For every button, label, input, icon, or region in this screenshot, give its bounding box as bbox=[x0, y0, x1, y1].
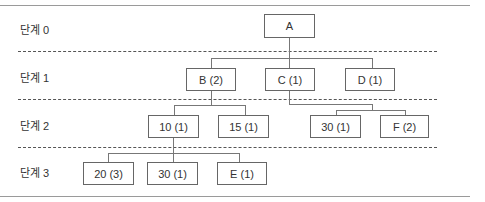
level-label-0: 단계 0 bbox=[20, 21, 49, 37]
connector bbox=[289, 104, 373, 105]
connector bbox=[239, 153, 240, 162]
node-10: 10 (1) bbox=[148, 115, 199, 138]
node-d: D (1) bbox=[345, 68, 395, 91]
connector bbox=[289, 38, 290, 68]
node-20: 20 (3) bbox=[83, 162, 134, 185]
connector bbox=[289, 90, 290, 104]
node-e: E (1) bbox=[217, 162, 267, 185]
connector bbox=[108, 153, 240, 154]
connector bbox=[336, 110, 406, 111]
connector bbox=[211, 90, 212, 105]
level-label-3: 단계 3 bbox=[20, 164, 49, 180]
node-30-level3: 30 (1) bbox=[147, 162, 198, 185]
connector bbox=[174, 105, 175, 115]
node-30-level2: 30 (1) bbox=[310, 115, 361, 138]
connector bbox=[211, 58, 373, 59]
level-separator bbox=[18, 51, 437, 52]
level-separator bbox=[18, 99, 437, 100]
connector bbox=[174, 105, 246, 106]
top-rule bbox=[0, 5, 470, 6]
connector bbox=[211, 58, 212, 68]
node-f: F (2) bbox=[380, 115, 429, 138]
connector bbox=[108, 153, 109, 162]
connector bbox=[245, 105, 246, 115]
level-label-1: 단계 1 bbox=[20, 69, 49, 85]
level-label-2: 단계 2 bbox=[20, 117, 49, 133]
node-a: A bbox=[264, 14, 315, 38]
node-15: 15 (1) bbox=[218, 115, 269, 138]
connector bbox=[173, 138, 174, 162]
node-b: B (2) bbox=[186, 68, 236, 91]
node-c: C (1) bbox=[265, 68, 315, 91]
bottom-rule bbox=[0, 196, 470, 197]
connector bbox=[372, 58, 373, 68]
level-separator bbox=[18, 147, 437, 148]
